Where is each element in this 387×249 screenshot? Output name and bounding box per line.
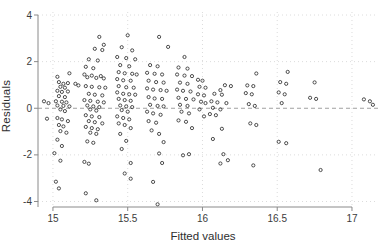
scatter-point [62, 125, 65, 128]
scatter-point [119, 132, 122, 135]
scatter-point [60, 144, 63, 147]
scatter-point [116, 55, 119, 58]
scatter-point [186, 82, 189, 85]
scatter-point [159, 89, 162, 92]
scatter-point [158, 35, 161, 38]
scatter-point [180, 110, 183, 113]
scatter-point [87, 120, 90, 123]
scatter-point [146, 110, 149, 113]
scatter-point [57, 81, 60, 84]
scatter-point [56, 75, 59, 78]
scatter-point [159, 113, 162, 116]
scatter-point [186, 104, 189, 107]
scatter-point [190, 127, 193, 130]
scatter-point [62, 104, 65, 107]
scatter-point [204, 102, 207, 105]
scatter-point [95, 109, 98, 112]
y-tick-label: -2 [23, 149, 32, 160]
scatter-point [319, 168, 322, 171]
scatter-point [86, 104, 89, 107]
scatter-point [93, 121, 96, 124]
scatter-point [198, 85, 201, 88]
scatter-point [147, 120, 150, 123]
scatter-point [128, 65, 131, 68]
x-tick-label: 15 [47, 213, 59, 224]
scatter-point [309, 96, 312, 99]
scatter-point [117, 97, 120, 100]
scatter-point [252, 85, 255, 88]
scatter-point [155, 81, 158, 84]
scatter-point [155, 121, 158, 124]
scatter-point [255, 123, 258, 126]
scatter-point [149, 103, 152, 106]
scatter-point [98, 86, 101, 89]
scatter-point [125, 86, 128, 89]
scatter-point [187, 112, 190, 115]
scatter-point [225, 102, 228, 105]
scatter-point [54, 100, 57, 103]
scatter-point [177, 66, 180, 69]
scatter-point [101, 94, 104, 97]
scatter-point [176, 88, 179, 91]
scatter-point [123, 99, 126, 102]
scatter-point [83, 99, 86, 102]
scatter-point [286, 70, 289, 73]
scatter-point [45, 117, 48, 120]
scatter-point [123, 172, 126, 175]
scatter-point [149, 64, 152, 67]
scatter-point [279, 81, 282, 84]
scatter-point [153, 97, 156, 100]
scatter-point [156, 65, 159, 68]
scatter-point [84, 125, 87, 128]
scatter-point [165, 89, 168, 92]
scatter-point [90, 74, 93, 77]
scatter-point [92, 67, 95, 70]
scatter-point [152, 88, 155, 91]
scatter-point [57, 123, 60, 126]
scatter-point [128, 93, 131, 96]
scatter-point [216, 101, 219, 104]
scatter-point [250, 93, 253, 96]
scatter-point [56, 116, 59, 119]
scatter-point [362, 98, 365, 101]
scatter-point [102, 101, 105, 104]
scatter-point [187, 153, 190, 156]
x-axis-label: Fitted values [53, 230, 353, 242]
scatter-point [59, 130, 62, 133]
scatter-point [57, 95, 60, 98]
x-tick-label: 15.5 [118, 213, 138, 224]
scatter-point [134, 93, 137, 96]
scatter-point [84, 65, 87, 68]
y-tick-label: 0 [26, 103, 32, 114]
scatter-point [54, 180, 57, 183]
scatter-point [98, 116, 101, 119]
scatter-point [162, 141, 165, 144]
scatter-point [210, 100, 213, 103]
scatter-point [178, 81, 181, 84]
scatter-point [102, 77, 105, 80]
scatter-point [116, 91, 119, 94]
scatter-point [84, 192, 87, 195]
scatter-point [204, 86, 207, 89]
scatter-point [125, 57, 128, 60]
scatter-point [98, 35, 101, 38]
scatter-point [371, 103, 374, 106]
scatter-point [280, 102, 283, 105]
scatter-point [211, 137, 214, 140]
scatter-point [129, 79, 132, 82]
scatter-point [60, 100, 63, 103]
x-tick-label: 17 [346, 213, 358, 224]
scatter-point [90, 115, 93, 118]
scatter-point [101, 122, 104, 125]
scatter-point [153, 72, 156, 75]
scatter-point [129, 177, 132, 180]
scatter-point [184, 97, 187, 100]
scatter-point [65, 101, 68, 104]
scatter-point [60, 118, 63, 121]
scatter-point [186, 67, 189, 70]
scatter-point [202, 94, 205, 97]
scatter-point [92, 141, 95, 144]
scatter-point [104, 86, 107, 89]
scatter-point [117, 85, 120, 88]
scatter-point [184, 120, 187, 123]
